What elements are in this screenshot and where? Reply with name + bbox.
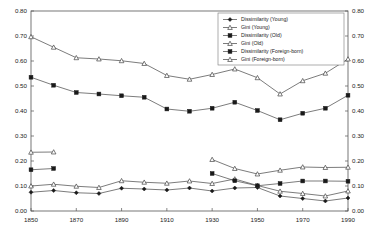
data-point-marker <box>52 83 56 87</box>
x-axis-tick-label: 1990 <box>341 216 355 223</box>
data-point-marker <box>52 189 56 193</box>
data-point-marker <box>346 57 351 61</box>
data-point-marker <box>232 166 237 170</box>
data-point-marker <box>346 189 351 193</box>
y-axis-tick-label-right: 0.40 <box>352 107 365 114</box>
y-axis-tick-label: 0.70 <box>15 32 28 39</box>
x-axis-tick-label: 1850 <box>24 216 38 223</box>
legend-label: Gini (Foreign-born) <box>241 56 285 62</box>
data-point-marker <box>142 95 146 99</box>
y-axis-tick-label-right: 0.00 <box>352 207 365 214</box>
y-axis-tick-label: 0.10 <box>15 182 28 189</box>
data-point-marker <box>165 73 170 77</box>
legend-item-1[interactable]: Gini (Young) <box>223 24 270 30</box>
data-point-marker <box>346 179 350 183</box>
y-axis-tick-label-right: 0.20 <box>352 157 365 164</box>
data-point-marker <box>29 168 33 172</box>
data-point-marker <box>52 167 56 171</box>
data-point-marker <box>97 92 101 96</box>
data-point-marker <box>301 111 305 115</box>
data-point-marker <box>51 45 56 49</box>
y-axis-tick-label: 0.00 <box>15 207 28 214</box>
data-point-marker <box>323 179 327 183</box>
y-axis-tick-label-right: 0.30 <box>352 132 365 139</box>
data-point-marker <box>120 186 124 190</box>
data-point-marker <box>323 106 327 110</box>
y-axis-tick-label-right: 0.10 <box>352 182 365 189</box>
data-point-marker <box>228 50 232 54</box>
legend-label: Gini (Old) <box>241 40 263 46</box>
legend-label: Dissimilarity (Old) <box>241 32 282 38</box>
data-point-marker <box>256 184 260 188</box>
line-chart: 0.800.800.700.700.600.600.500.500.400.40… <box>0 0 376 238</box>
data-point-marker <box>165 107 169 111</box>
data-point-marker <box>256 109 260 113</box>
x-axis-tick-label: 1890 <box>115 216 129 223</box>
data-point-marker <box>210 189 214 193</box>
x-axis-tick-label: 1910 <box>160 216 174 223</box>
legend-label: Dissimilarity (Foreign-born) <box>241 48 304 54</box>
data-point-marker <box>278 182 282 186</box>
data-point-marker <box>142 187 146 191</box>
y-axis-tick-label: 0.30 <box>15 132 28 139</box>
series-line <box>31 169 54 170</box>
x-axis-tick-label: 1870 <box>69 216 83 223</box>
data-point-marker <box>29 190 33 194</box>
data-point-marker <box>255 75 260 79</box>
data-point-marker <box>210 172 214 176</box>
data-point-marker <box>74 91 78 95</box>
chart-container: 0.800.800.700.700.600.600.500.500.400.40… <box>0 0 376 238</box>
y-axis-tick-label: 0.60 <box>15 57 28 64</box>
data-point-marker <box>346 93 350 97</box>
data-point-marker <box>29 75 33 79</box>
data-point-marker <box>74 191 78 195</box>
data-point-marker <box>97 192 101 196</box>
data-point-marker <box>346 196 350 200</box>
data-point-marker <box>278 118 282 122</box>
data-point-marker <box>165 188 169 192</box>
series-4 <box>29 167 350 188</box>
y-axis-tick-label-right: 0.50 <box>352 82 365 89</box>
data-point-marker <box>228 34 232 38</box>
data-point-marker <box>233 186 237 190</box>
data-point-marker <box>232 67 237 71</box>
y-axis-tick-label: 0.40 <box>15 107 28 114</box>
data-point-marker <box>323 71 328 75</box>
data-point-marker <box>120 94 124 98</box>
y-axis-tick-label-right: 0.80 <box>352 7 365 14</box>
series-5 <box>29 150 351 176</box>
y-axis-tick-label: 0.80 <box>15 7 28 14</box>
legend-label: Gini (Young) <box>241 24 270 30</box>
data-point-marker <box>278 92 283 96</box>
legend-label: Dissimilarity (Young) <box>241 16 288 22</box>
data-point-marker <box>29 34 34 38</box>
y-axis-tick-label-right: 0.60 <box>352 57 365 64</box>
y-axis-tick-label-right: 0.70 <box>352 32 365 39</box>
data-point-marker <box>210 157 215 161</box>
data-point-marker <box>210 106 214 110</box>
data-point-marker <box>188 109 192 113</box>
data-point-marker <box>233 179 237 183</box>
data-point-marker <box>323 199 327 203</box>
x-axis-tick-label: 1930 <box>205 216 219 223</box>
y-axis-tick-label: 0.20 <box>15 157 28 164</box>
x-axis-tick-label: 1950 <box>251 216 265 223</box>
data-point-marker <box>278 194 282 198</box>
y-axis-tick-label: 0.50 <box>15 82 28 89</box>
data-point-marker <box>188 186 192 190</box>
x-axis-tick-label: 1970 <box>296 216 310 223</box>
data-point-marker <box>301 179 305 183</box>
data-point-marker <box>301 197 305 201</box>
data-point-marker <box>233 100 237 104</box>
